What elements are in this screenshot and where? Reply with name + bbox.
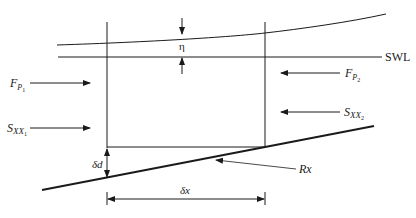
eta-label: η bbox=[179, 40, 185, 52]
delta-d-label: δd bbox=[92, 158, 103, 170]
delta-x-label: δx bbox=[180, 184, 190, 196]
water-surface-curve bbox=[57, 14, 386, 45]
fp1-label: FP1 bbox=[9, 76, 25, 93]
diagram-canvas: SWL η FP1 SXX1 FP2 SXX2 δd Rx δx bbox=[0, 0, 416, 218]
rx-leader-arrow-icon bbox=[216, 160, 296, 169]
rx-label: Rx bbox=[298, 162, 312, 176]
sxx1-label: SXX1 bbox=[7, 121, 27, 137]
sxx2-label: SXX2 bbox=[344, 105, 364, 121]
fp2-label: FP2 bbox=[344, 66, 360, 83]
swl-label: SWL bbox=[385, 50, 410, 64]
